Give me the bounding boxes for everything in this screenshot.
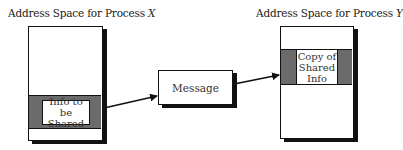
arrow-message-to-copy [234, 75, 279, 84]
arrow-shared-info-to-message [104, 96, 157, 108]
